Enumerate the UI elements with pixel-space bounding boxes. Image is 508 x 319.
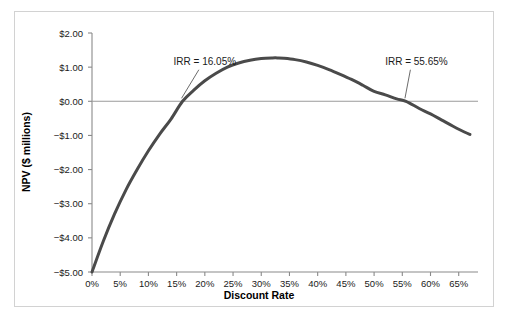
annotation-label-irr-low: IRR = 16.05% [174,56,237,67]
npv-curve [92,58,470,272]
annotation-label-irr-high: IRR = 55.65% [385,56,448,67]
x-tick-label: 60% [421,278,441,289]
y-tick-label: $2.00 [59,28,83,39]
y-tick-label: −$1.00 [54,130,83,141]
y-tick-label: $1.00 [59,62,83,73]
y-tick-label: −$5.00 [54,267,83,278]
x-tick-label: 25% [224,278,244,289]
y-tick-label: −$3.00 [54,198,83,209]
y-axis-title: NPV ($ millions) [20,112,32,192]
x-tick-label: 65% [449,278,469,289]
x-tick-label: 45% [336,278,356,289]
x-tick-label: 5% [113,278,127,289]
npv-chart: $2.00$1.00$0.00−$1.00−$2.00−$3.00−$4.00−… [0,0,508,319]
y-tick-label: $0.00 [59,96,83,107]
x-axis-ticks: 0%5%10%15%20%25%30%35%40%45%50%55%60%65% [85,272,469,289]
x-tick-label: 50% [365,278,385,289]
x-axis-title: Discount Rate [224,289,295,301]
y-tick-label: −$2.00 [54,164,83,175]
x-tick-label: 10% [139,278,159,289]
x-tick-label: 35% [280,278,300,289]
x-tick-label: 30% [252,278,272,289]
x-tick-label: 20% [195,278,215,289]
x-tick-label: 55% [393,278,413,289]
npv-profile-figure: $2.00$1.00$0.00−$1.00−$2.00−$3.00−$4.00−… [0,0,508,319]
annotation-leader-irr-high [405,70,410,99]
x-tick-label: 0% [85,278,99,289]
x-tick-label: 15% [167,278,187,289]
x-tick-label: 40% [308,278,328,289]
y-tick-label: −$4.00 [54,232,83,243]
y-axis-ticks: $2.00$1.00$0.00−$1.00−$2.00−$3.00−$4.00−… [54,28,92,278]
